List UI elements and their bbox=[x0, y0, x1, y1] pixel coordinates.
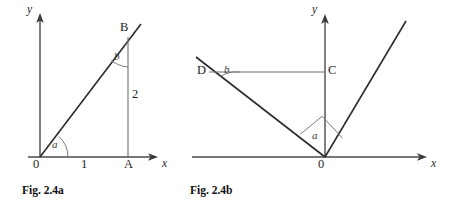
fig-b-right-ray bbox=[325, 21, 406, 157]
fig-b-y-axis-label: y bbox=[312, 4, 317, 16]
fig-b-y-axis bbox=[321, 14, 329, 157]
fig-b-x-axis-label: x bbox=[431, 158, 436, 170]
fig-b-x-axis bbox=[192, 153, 427, 161]
fig-a-angle-a-label: a bbox=[52, 139, 58, 150]
fig-a-x-axis-label: x bbox=[162, 158, 167, 170]
fig-b-right-angle-marker bbox=[300, 116, 342, 138]
fig-b-point-d-label: D bbox=[197, 64, 206, 77]
fig-a-angle-a-arc bbox=[59, 137, 68, 158]
fig-a-length-label: 2 bbox=[132, 88, 138, 101]
fig-a-point-a-label: A bbox=[124, 158, 133, 171]
fig-b-angle-a-label: a bbox=[312, 130, 318, 141]
fig-b-angle-b-label: b bbox=[224, 64, 230, 75]
fig-a-caption: Fig. 2.4a bbox=[22, 184, 64, 196]
fig-b-caption: Fig. 2.4b bbox=[190, 184, 233, 196]
fig-b-origin-label: 0 bbox=[318, 158, 324, 171]
fig-a-origin-label: 0 bbox=[33, 158, 39, 171]
fig-a-tick-1-label: 1 bbox=[81, 158, 87, 171]
figure-page: y x 0 1 A B 2 a b y x 0 C D b a Fig. 2.4… bbox=[0, 0, 453, 210]
fig-a-x-axis bbox=[28, 153, 158, 161]
fig-a-y-axis-label: y bbox=[27, 4, 32, 16]
fig-b-point-c-label: C bbox=[328, 64, 336, 77]
figures-canvas bbox=[0, 0, 453, 210]
fig-a-point-b-label: B bbox=[120, 21, 128, 34]
fig-a-angle-b-label: b bbox=[114, 51, 120, 62]
fig-a-y-axis bbox=[36, 13, 44, 157]
